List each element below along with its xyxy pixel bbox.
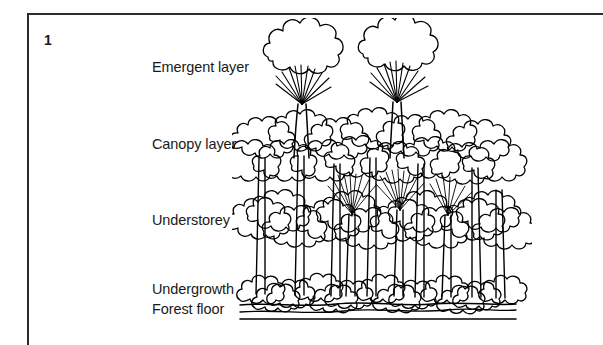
figure-number: 1 [44,33,52,47]
rainforest-layers-illustration [232,18,532,328]
label-canopy-layer: Canopy layer [152,137,236,152]
understorey-crowns [232,190,532,249]
label-forest-floor: Forest floor [152,302,224,317]
page-border-top [27,13,603,15]
label-undergrowth: Undergrowth [152,282,234,297]
undergrowth-shrubs [237,273,527,313]
canopy-layer-crowns [232,108,527,184]
page-border-left [27,13,29,345]
label-understorey: Understorey [152,213,230,228]
emergent-tree-left [263,18,343,158]
emergent-tree-right [358,18,438,158]
figure-page: 1 Emergent layer Canopy layer Understore… [0,0,603,345]
